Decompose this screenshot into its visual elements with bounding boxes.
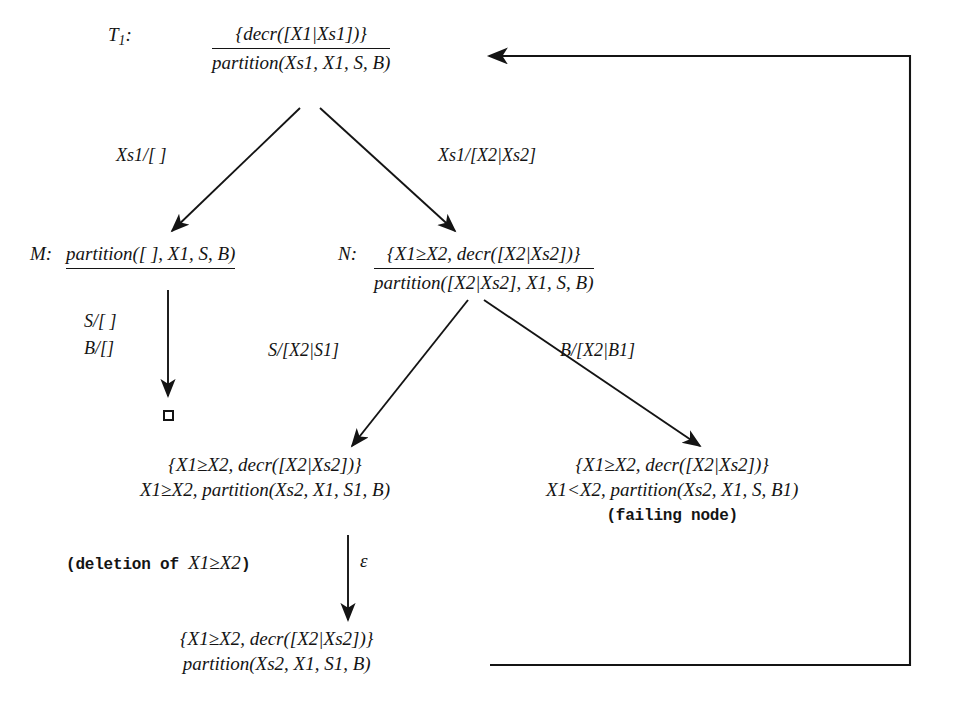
- diagram-edges: [0, 0, 957, 708]
- node-bottom-line1: {X1≥X2, decr([X2|Xs2])}: [180, 627, 373, 652]
- annotation-deletion-suffix: ): [241, 556, 250, 574]
- node-m-line1: partition([ ], X1, S, B): [66, 242, 235, 267]
- node-n-tag: N:: [338, 243, 357, 265]
- node-n: {X1≥X2, decr([X2|Xs2])} partition([X2|Xs…: [374, 242, 594, 295]
- node-right-leaf-line1: {X1≥X2, decr([X2|Xs2])}: [546, 453, 798, 478]
- empty-clause-box: [163, 410, 174, 421]
- node-bottom-line2: partition(Xs2, X1, S1, B): [180, 652, 373, 677]
- node-left-leaf-line2: X1≥X2, partition(Xs2, X1, S1, B): [140, 478, 390, 503]
- annotation-deletion: (deletion of X1≥X2): [66, 552, 250, 574]
- node-root-tag: T1:: [108, 24, 132, 49]
- node-root: {decr([X1|Xs1])} partition(Xs1, X1, S, B…: [212, 22, 390, 75]
- node-m-tag: M:: [30, 243, 52, 265]
- edge-label-n-right: B/[X2|B1]: [560, 340, 635, 361]
- node-m: partition([ ], X1, S, B): [66, 242, 235, 271]
- edge-loop-back-to-root: [489, 56, 910, 665]
- node-n-rule-line: [374, 268, 594, 269]
- node-root-line1: {decr([X1|Xs1])}: [212, 22, 390, 47]
- node-root-rule-line: [212, 48, 390, 49]
- diagram-canvas: T1: {decr([X1|Xs1])} partition(Xs1, X1, …: [0, 0, 957, 708]
- node-bottom: {X1≥X2, decr([X2|Xs2])} partition(Xs2, X…: [180, 627, 373, 676]
- node-n-line2: partition([X2|Xs2], X1, S, B): [374, 271, 594, 296]
- edge-label-m-down-2: B/[]: [84, 338, 114, 359]
- edge-label-n-left: S/[X2|S1]: [268, 340, 339, 361]
- node-right-leaf: {X1≥X2, decr([X2|Xs2])} X1<X2, partition…: [546, 453, 798, 527]
- edge-n-to-left-leaf: [352, 300, 468, 446]
- node-right-leaf-failing-label: (failing node): [546, 506, 798, 527]
- edge-label-epsilon: ε: [360, 550, 368, 572]
- edge-label-root-right: Xs1/[X2|Xs2]: [438, 145, 536, 166]
- node-root-line2: partition(Xs1, X1, S, B): [212, 51, 390, 76]
- node-right-leaf-line2: X1<X2, partition(Xs2, X1, S, B1): [546, 478, 798, 503]
- annotation-deletion-constraint: X1≥X2: [188, 552, 241, 573]
- edge-root-to-m: [172, 108, 300, 231]
- node-left-leaf: {X1≥X2, decr([X2|Xs2])} X1≥X2, partition…: [140, 453, 390, 502]
- annotation-deletion-prefix: (deletion of: [66, 556, 188, 574]
- edge-n-to-right-leaf: [484, 300, 700, 446]
- edge-label-m-down-1: S/[ ]: [84, 311, 117, 332]
- node-m-rule-line: [66, 268, 235, 269]
- node-n-line1: {X1≥X2, decr([X2|Xs2])}: [374, 242, 594, 267]
- node-left-leaf-line1: {X1≥X2, decr([X2|Xs2])}: [140, 453, 390, 478]
- edge-label-root-left: Xs1/[ ]: [116, 145, 167, 166]
- edge-root-to-n: [320, 108, 455, 231]
